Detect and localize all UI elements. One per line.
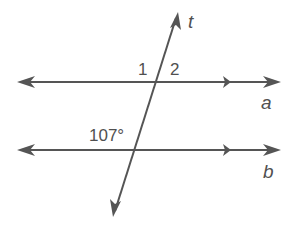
label-a: a xyxy=(261,93,272,112)
line-b xyxy=(17,144,281,156)
label-t: t xyxy=(188,12,193,31)
angle-1-label: 1 xyxy=(138,61,147,78)
angle-2-label: 2 xyxy=(170,61,179,78)
line-t xyxy=(110,12,181,217)
arrowhead-up-icon xyxy=(170,12,181,30)
angle-107-label: 107° xyxy=(89,127,124,144)
label-b: b xyxy=(263,162,274,181)
line-a xyxy=(17,76,281,88)
diagram-canvas xyxy=(0,0,300,235)
arrowhead-down-icon xyxy=(110,199,121,217)
